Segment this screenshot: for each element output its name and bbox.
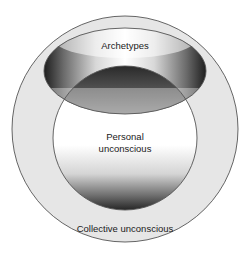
personal-unconscious-label-line2: unconscious <box>99 143 152 154</box>
archetypes-label: Archetypes <box>101 40 149 51</box>
jung-psyche-diagram: Archetypes Personal unconscious Collecti… <box>0 0 249 261</box>
personal-unconscious-label-line1: Personal <box>106 131 144 142</box>
collective-unconscious-label: Collective unconscious <box>77 223 174 234</box>
